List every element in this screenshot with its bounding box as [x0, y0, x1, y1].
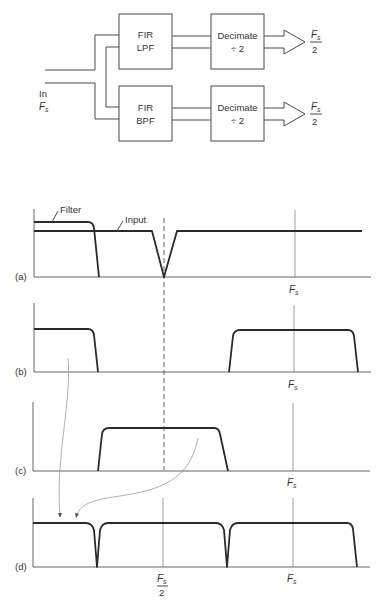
svg-text:Fs: Fs [311, 101, 321, 113]
plot-a-input-spectrum [34, 231, 362, 277]
mapping-curve-lpf [59, 358, 69, 515]
output-rate-top: Fs 2 [310, 29, 322, 55]
plot-c-bpf-band [98, 428, 228, 471]
plot-b-image-band [229, 330, 358, 372]
decimate-bottom-line1: Decimate [217, 102, 257, 113]
input-wire-bottom [45, 83, 119, 119]
filter-bank-figure: In Fs FIR LPF Decimate ÷ 2 Fs 2 FIR BPF [0, 0, 384, 607]
decimate-top-line2: ÷ 2 [231, 43, 244, 54]
plot-d: (d) Fs 2 Fs [15, 498, 370, 598]
mapping-curve-bpf [77, 438, 198, 515]
plot-d-fs-label: Fs [287, 573, 297, 585]
mapping-arrowhead-lpf [58, 513, 62, 518]
fir-bpf-line2: BPF [136, 115, 155, 126]
plot-a-fs-label: Fs [289, 284, 299, 296]
svg-text:2: 2 [312, 116, 317, 127]
input-label: In [39, 88, 47, 99]
plot-d-label: (d) [15, 561, 27, 572]
plot-c-label: (c) [15, 465, 26, 476]
mapping-arrows [58, 358, 198, 518]
plot-d-combined-spectrum [33, 523, 357, 567]
input-wire-top [45, 35, 119, 70]
output-arrow-bottom [264, 102, 305, 126]
filter-annotation: Filter [60, 204, 81, 215]
svg-text:Fs: Fs [157, 573, 167, 585]
input-annotation: Input [125, 214, 146, 225]
block-diagram: In Fs FIR LPF Decimate ÷ 2 Fs 2 FIR BPF [39, 14, 322, 141]
plot-b-lpf-band [34, 329, 98, 372]
output-rate-bottom: Fs 2 [310, 101, 322, 127]
decimate-top-block [211, 14, 264, 69]
decimate-top-line1: Decimate [217, 30, 257, 41]
plot-c: (c) Fs [15, 402, 370, 489]
plot-b-fs-label: Fs [288, 379, 298, 391]
svg-text:2: 2 [159, 587, 164, 598]
plot-c-fs-label: Fs [287, 477, 297, 489]
plot-a: Filter Input (a) Fs [15, 204, 371, 296]
decimate-bottom-line2: ÷ 2 [231, 115, 244, 126]
output-arrow-top [264, 30, 305, 54]
fir-lpf-line2: LPF [137, 42, 155, 53]
svg-text:Fs: Fs [311, 29, 321, 41]
input-wire-cross [106, 47, 119, 107]
fir-bpf-block [119, 86, 172, 141]
plot-d-half-fs-label: Fs 2 [157, 573, 168, 598]
plot-a-label: (a) [15, 271, 27, 282]
fir-lpf-line1: FIR [138, 29, 153, 40]
fir-bpf-line1: FIR [138, 102, 153, 113]
svg-text:2: 2 [312, 44, 317, 55]
input-rate-label: Fs [39, 101, 49, 113]
plot-b-label: (b) [15, 366, 27, 377]
decimate-bottom-block [211, 86, 264, 141]
mapping-arrowhead-bpf [75, 513, 79, 518]
